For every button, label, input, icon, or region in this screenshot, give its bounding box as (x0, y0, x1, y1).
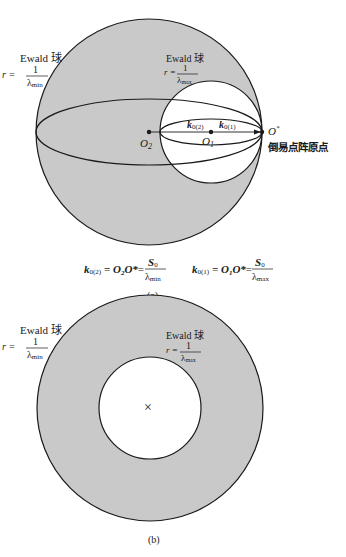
inner-sphere-r-b: r = (166, 345, 178, 355)
inner-sphere-num-b: 1 (186, 340, 191, 351)
caption-b: (b) (148, 534, 160, 546)
svg-text:S0: S0 (255, 256, 265, 269)
panel-a: Ewald 球 r = 1 λmin Ewald 球 r = 1 λmax O2… (2, 19, 329, 302)
svg-text:k0(1) = O1O*=: k0(1) = O1O*= (192, 263, 252, 277)
point-o2 (147, 130, 151, 134)
svg-text:λmax: λmax (252, 271, 269, 283)
point-o1 (209, 130, 213, 134)
point-ostar (260, 130, 264, 134)
svg-text:S0: S0 (148, 256, 158, 269)
equation-k01: k0(1) = O1O*= S0 λmax (192, 256, 273, 283)
label-ostar: O* (268, 124, 280, 137)
inner-sphere-r-a: r = (164, 67, 176, 77)
panel-b: × Ewald 球 r = 1 λmin Ewald 球 r = 1 λmax … (2, 295, 263, 546)
svg-text:k0(2) = O2O*=: k0(2) = O2O*= (84, 263, 144, 277)
outer-sphere-num-b: 1 (33, 336, 38, 347)
outer-sphere-r-b: r = (2, 341, 15, 352)
outer-sphere-title-a: Ewald 球 (20, 51, 62, 64)
outer-sphere-den-a: λmin (27, 77, 43, 89)
reciprocal-lattice-origin-caption: 倒易点阵原点 (267, 141, 329, 153)
outer-sphere-num-a: 1 (33, 64, 38, 75)
outer-sphere-r-a: r = (2, 69, 15, 80)
equation-k02: k0(2) = O2O*= S0 λmin (84, 256, 166, 283)
outer-sphere-den-b: λmin (27, 349, 43, 361)
center-cross-icon: × (144, 400, 152, 415)
inner-sphere-num-a: 1 (183, 63, 188, 73)
svg-text:λmin: λmin (145, 271, 161, 283)
outer-sphere-title-b: Ewald 球 (20, 323, 62, 336)
